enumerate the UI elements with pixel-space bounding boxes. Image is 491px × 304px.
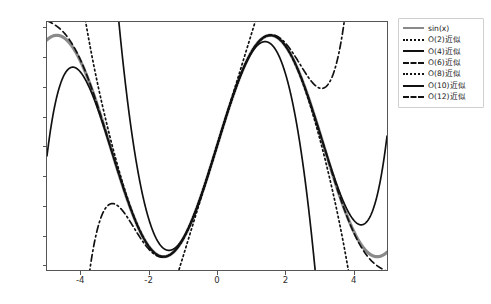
legend-label: sin(x) bbox=[428, 25, 449, 33]
legend-swatch-o8 bbox=[403, 69, 424, 80]
legend-label: O(6)近似 bbox=[428, 59, 461, 67]
legend-swatch-o12 bbox=[403, 92, 424, 103]
x-tick-mark bbox=[285, 271, 286, 275]
chart-canvas bbox=[47, 22, 387, 270]
x-tick-mark bbox=[217, 271, 218, 275]
legend-item-o2: O(2)近似 bbox=[403, 34, 479, 45]
legend-swatch-o10 bbox=[403, 80, 424, 91]
legend-swatch-o6 bbox=[403, 57, 424, 68]
legend-item-o8: O(8)近似 bbox=[403, 69, 479, 80]
x-tick-label: 2 bbox=[270, 276, 300, 285]
legend-swatch-o2 bbox=[403, 35, 424, 46]
legend-item-o12: O(12)近似 bbox=[403, 91, 479, 102]
legend-label: O(8)近似 bbox=[428, 70, 461, 78]
legend-label: O(4)近似 bbox=[428, 48, 461, 56]
legend-item-sin: sin(x) bbox=[403, 23, 479, 34]
legend-label: O(12)近似 bbox=[428, 93, 466, 101]
legend-swatch-sin bbox=[403, 23, 424, 34]
legend-item-o10: O(10)近似 bbox=[403, 80, 479, 91]
x-tick-label: -2 bbox=[134, 276, 164, 285]
plot-area bbox=[46, 21, 388, 271]
x-tick-label: 4 bbox=[339, 276, 369, 285]
legend-item-o4: O(4)近似 bbox=[403, 46, 479, 57]
legend-swatch-o4 bbox=[403, 46, 424, 57]
x-tick-mark bbox=[149, 271, 150, 275]
legend-label: O(2)近似 bbox=[428, 36, 461, 44]
legend-item-o6: O(6)近似 bbox=[403, 57, 479, 68]
legend-label: O(10)近似 bbox=[428, 82, 466, 90]
series-line-o12 bbox=[47, 22, 387, 270]
figure: 1.00 0.75 0.50 0.25 0.00 -0.25 -0.50 -0.… bbox=[0, 0, 491, 304]
legend: sin(x) O(2)近似 O(4)近似 O(6)近似 O(8)近似 O(10)… bbox=[398, 18, 484, 108]
x-tick-label: -4 bbox=[65, 276, 95, 285]
x-tick-mark bbox=[80, 271, 81, 275]
x-tick-label: 0 bbox=[202, 276, 232, 285]
x-tick-mark bbox=[354, 271, 355, 275]
